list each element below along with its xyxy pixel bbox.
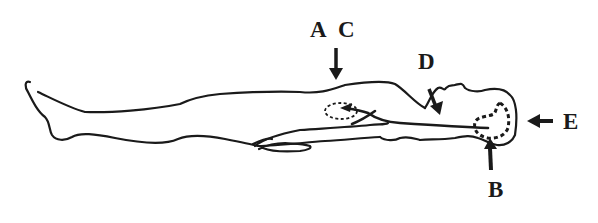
arrow-b <box>484 138 497 170</box>
pathway-arrowhead-icon <box>340 103 352 112</box>
arrow-ac <box>329 48 343 80</box>
label-a: A <box>310 18 327 41</box>
arrow-e <box>527 114 553 128</box>
label-c: C <box>338 18 355 41</box>
dashed-region-head <box>475 103 509 138</box>
label-b: B <box>488 178 503 201</box>
arm-outline <box>255 123 388 146</box>
label-d: D <box>418 50 435 73</box>
crossing-line <box>352 111 375 124</box>
back-outline <box>380 137 420 140</box>
body-outline-top <box>38 82 425 112</box>
label-e: E <box>563 110 578 133</box>
arrow-d <box>429 89 443 115</box>
diagram-canvas: A C D E B <box>0 0 598 223</box>
body-diagram <box>0 0 598 223</box>
dashed-region-chest <box>325 103 357 119</box>
